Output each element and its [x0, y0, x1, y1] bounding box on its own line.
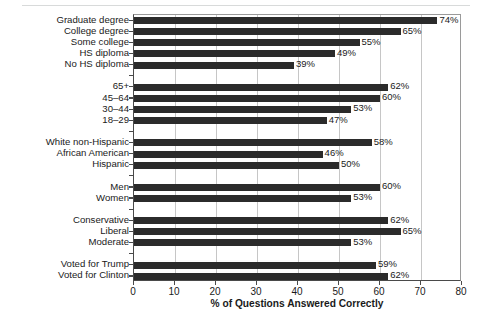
bar-row: 46% — [134, 148, 460, 159]
x-axis-tick-80 — [461, 281, 462, 285]
bar — [134, 84, 388, 91]
x-axis-tick-label: 60 — [373, 286, 384, 298]
x-axis-tick-30 — [256, 281, 257, 285]
bar — [134, 39, 360, 46]
y-axis-label: Graduate degree — [8, 14, 133, 25]
x-axis-tick-20 — [215, 281, 216, 285]
bar-row-spacer — [134, 249, 460, 260]
y-axis-label: Some college — [8, 36, 133, 47]
bar — [134, 95, 380, 102]
y-axis-label: No HS diploma — [8, 58, 133, 69]
y-axis-label: Voted for Clinton — [8, 269, 133, 280]
bar-value-label: 62% — [388, 214, 409, 225]
bar-row: 39% — [134, 59, 460, 70]
bar-row: 59% — [134, 260, 460, 271]
y-axis-category-labels: Graduate degreeCollege degreeSome colleg… — [0, 14, 133, 281]
bar-chart-figure: Graduate degreeCollege degreeSome colleg… — [0, 0, 494, 327]
x-axis-tick-50 — [338, 281, 339, 285]
bar-row: 60% — [134, 182, 460, 193]
bar — [134, 228, 401, 235]
bar-value-label: 53% — [351, 102, 372, 113]
x-axis-tick-label: 0 — [130, 286, 136, 298]
bar-row: 62% — [134, 82, 460, 93]
bar-value-label: 46% — [323, 147, 344, 158]
y-axis-label: Moderate — [8, 236, 133, 247]
bar — [134, 195, 351, 202]
bar — [134, 139, 372, 146]
y-axis-label: 30–44 — [8, 103, 133, 114]
bar-row-spacer — [134, 171, 460, 182]
bar-row: 53% — [134, 193, 460, 204]
x-axis-tick-40 — [297, 281, 298, 285]
bar-row: 65% — [134, 26, 460, 37]
y-axis-label: African American — [8, 147, 133, 158]
bar-row: 53% — [134, 104, 460, 115]
bar — [134, 106, 351, 113]
bar-value-label: 49% — [335, 47, 356, 58]
bar — [134, 217, 388, 224]
bar-value-label: 65% — [401, 225, 422, 236]
y-axis-label: White non-Hispanic — [8, 136, 133, 147]
y-axis-label: Men — [8, 181, 133, 192]
y-axis-label: College degree — [8, 25, 133, 36]
bar — [134, 50, 335, 57]
y-axis-label: 18–29 — [8, 114, 133, 125]
bar — [134, 162, 339, 169]
bar-row: 47% — [134, 115, 460, 126]
bar — [134, 62, 294, 69]
bar — [134, 17, 437, 24]
bar-row-spacer — [134, 204, 460, 215]
bar — [134, 273, 388, 280]
x-axis-tick-label: 40 — [291, 286, 302, 298]
x-axis-tick-10 — [174, 281, 175, 285]
bar-row: 58% — [134, 137, 460, 148]
y-axis-label: 45–64 — [8, 92, 133, 103]
x-axis-tick-label: 30 — [250, 286, 261, 298]
plot-area: 74%65%55%49%39%62%60%53%47%58%46%50%60%5… — [133, 14, 461, 281]
bar-value-label: 65% — [401, 25, 422, 36]
bar-row-spacer — [134, 126, 460, 137]
bar — [134, 28, 401, 35]
bar-value-label: 47% — [327, 114, 348, 125]
bar — [134, 184, 380, 191]
bar-value-label: 58% — [372, 136, 393, 147]
y-axis-label: Women — [8, 192, 133, 203]
bar-value-label: 53% — [351, 191, 372, 202]
bar-row: 53% — [134, 237, 460, 248]
bar-row-spacer — [134, 71, 460, 82]
bar — [134, 262, 376, 269]
bar-row: 55% — [134, 37, 460, 48]
bar-value-label: 50% — [339, 158, 360, 169]
x-axis-tick-70 — [420, 281, 421, 285]
bar-value-label: 60% — [380, 180, 401, 191]
x-axis-tick-label: 70 — [414, 286, 425, 298]
bar-row: 65% — [134, 226, 460, 237]
y-axis-label: Conservative — [8, 214, 133, 225]
y-axis-label: 65+ — [8, 80, 133, 91]
y-axis-label: Hispanic — [8, 158, 133, 169]
bar-row: 50% — [134, 160, 460, 171]
y-axis-label: HS diploma — [8, 47, 133, 58]
x-axis-tick-label: 20 — [209, 286, 220, 298]
bar-value-label: 74% — [437, 14, 458, 25]
bar-value-label: 60% — [380, 91, 401, 102]
x-axis-tick-label: 10 — [168, 286, 179, 298]
bar-value-label: 39% — [294, 58, 315, 69]
bar — [134, 117, 327, 124]
bar-value-label: 62% — [388, 269, 409, 280]
bar — [134, 239, 351, 246]
x-axis-tick-label: 50 — [332, 286, 343, 298]
bar — [134, 151, 323, 158]
x-axis-tick-0 — [133, 281, 134, 285]
bar-value-label: 62% — [388, 80, 409, 91]
bar-row: 60% — [134, 93, 460, 104]
bar-value-label: 55% — [360, 36, 381, 47]
x-axis-title: % of Questions Answered Correctly — [133, 298, 461, 309]
y-axis-label: Voted for Trump — [8, 258, 133, 269]
bar-value-label: 53% — [351, 236, 372, 247]
x-axis-tick-60 — [379, 281, 380, 285]
bar-value-label: 59% — [376, 258, 397, 269]
x-axis-tick-label: 80 — [455, 286, 466, 298]
y-axis-label: Liberal — [8, 225, 133, 236]
